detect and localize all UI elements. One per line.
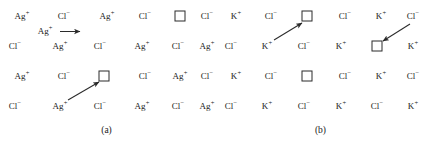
lattice-site: K+ bbox=[336, 42, 346, 51]
vacancy-site bbox=[302, 71, 313, 82]
panel-a-caption: (a) bbox=[0, 126, 213, 136]
lattice-site: Cl− bbox=[225, 42, 238, 51]
lattice-site: K+ bbox=[408, 42, 418, 51]
lattice-site: Cl− bbox=[139, 72, 152, 81]
lattice-site: K+ bbox=[376, 72, 386, 81]
vacancy-site bbox=[372, 41, 383, 52]
lattice-site: K+ bbox=[408, 102, 418, 111]
lattice-site: K+ bbox=[376, 12, 386, 21]
lattice-site: K+ bbox=[231, 72, 241, 81]
panel-a-agcl: Ag+ Cl− Ag+ Cl− Cl− Cl− Ag+ Cl− Ag+ Cl− … bbox=[0, 0, 213, 142]
lattice-site: Cl− bbox=[172, 102, 185, 111]
lattice-site: Cl− bbox=[298, 42, 311, 51]
lattice-site: K+ bbox=[262, 42, 272, 51]
vacancy-site bbox=[99, 71, 110, 82]
lattice-site: Cl− bbox=[371, 102, 384, 111]
lattice-site: Ag+ bbox=[15, 12, 30, 21]
lattice-site: Cl− bbox=[407, 72, 420, 81]
lattice-site: K+ bbox=[336, 102, 346, 111]
lattice-grid-a: Ag+ Cl− Ag+ Cl− Cl− Cl− Ag+ Cl− Ag+ Cl− … bbox=[0, 0, 213, 118]
lattice-site: Cl− bbox=[339, 72, 352, 81]
lattice-site: Cl− bbox=[298, 102, 311, 111]
lattice-site: Ag+ bbox=[173, 72, 188, 81]
lattice-site: Ag+ bbox=[15, 72, 30, 81]
lattice-site: Ag+ bbox=[200, 42, 215, 51]
vacancy-site bbox=[302, 11, 313, 22]
lattice-site: Ag+ bbox=[135, 42, 150, 51]
lattice-site: Ag+ bbox=[200, 102, 215, 111]
lattice-site: Cl− bbox=[94, 42, 107, 51]
lattice-site: Ag+ bbox=[53, 42, 68, 51]
panel-b-caption: (b) bbox=[214, 126, 427, 136]
diffusion-mechanism-figure: Ag+ Cl− Ag+ Cl− Cl− Cl− Ag+ Cl− Ag+ Cl− … bbox=[0, 0, 427, 142]
lattice-site: Cl− bbox=[225, 102, 238, 111]
lattice-site: Cl− bbox=[201, 72, 214, 81]
lattice-site: Cl− bbox=[265, 72, 278, 81]
lattice-site: Cl− bbox=[339, 12, 352, 21]
lattice-site: Cl− bbox=[201, 12, 214, 21]
lattice-site: Cl− bbox=[94, 102, 107, 111]
lattice-site: Cl− bbox=[407, 12, 420, 21]
lattice-site: Cl− bbox=[265, 12, 278, 21]
lattice-site: Cl− bbox=[139, 12, 152, 21]
interstitial-ion-label: Ag+ bbox=[38, 27, 53, 36]
vacancy-site bbox=[175, 11, 186, 22]
lattice-site: K+ bbox=[231, 12, 241, 21]
lattice-grid-b: K+ Cl− Cl− K+ Cl− Cl− K+ Cl− K+ K+ K+ Cl… bbox=[214, 0, 427, 118]
lattice-site: Ag+ bbox=[53, 102, 68, 111]
lattice-site: Cl− bbox=[58, 72, 71, 81]
lattice-site: Cl− bbox=[9, 42, 22, 51]
lattice-site: Cl− bbox=[9, 102, 22, 111]
lattice-site: Ag+ bbox=[135, 102, 150, 111]
lattice-site: Cl− bbox=[58, 12, 71, 21]
lattice-site: Cl− bbox=[172, 42, 185, 51]
lattice-site: K+ bbox=[262, 102, 272, 111]
panel-b-kcl: K+ Cl− Cl− K+ Cl− Cl− K+ Cl− K+ K+ K+ Cl… bbox=[214, 0, 427, 142]
lattice-site: Ag+ bbox=[100, 12, 115, 21]
